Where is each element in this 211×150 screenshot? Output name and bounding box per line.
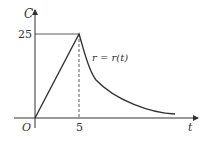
curve-r-of-t (35, 34, 175, 118)
curve-label: r = r(t) (92, 52, 128, 63)
x-tick-5: 5 (76, 121, 83, 134)
origin-label: O (22, 121, 31, 134)
chart: C 25 O 5 t r = r(t) (0, 0, 211, 150)
x-axis-label: t (188, 121, 193, 134)
y-tick-25: 25 (18, 28, 32, 41)
y-axis-label: C (24, 7, 33, 21)
